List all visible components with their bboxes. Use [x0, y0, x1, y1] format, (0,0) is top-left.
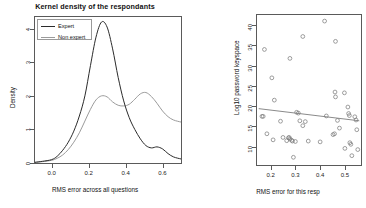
x-tickmark	[271, 166, 272, 170]
y-axis-title: Log10 password keyspace	[233, 40, 240, 115]
scatter-point	[356, 148, 360, 152]
scatter-point	[303, 120, 307, 124]
scatter-point	[301, 35, 305, 39]
x-tickmark	[295, 166, 296, 170]
chart-title: Kernel density of the respondants	[0, 2, 190, 11]
scatter-point	[301, 124, 305, 128]
scatter-point	[271, 138, 275, 142]
y-tick-label: 3	[25, 61, 31, 75]
scatter-point	[281, 136, 285, 140]
scatter-point	[336, 119, 340, 123]
scatter-point	[292, 155, 296, 159]
plot-area	[256, 14, 362, 166]
legend-label-expert: Expert	[58, 22, 74, 30]
x-tickmark	[345, 166, 346, 170]
scatter-point	[272, 98, 276, 102]
legend: Expert Non expert	[37, 19, 92, 40]
scatter-point	[334, 39, 338, 43]
y-tick-label: 4	[25, 28, 31, 42]
scatter-point	[270, 76, 274, 80]
y-tick-label: 40	[247, 24, 253, 40]
scatter-point	[323, 19, 327, 23]
y-tick-label: 30	[247, 65, 253, 81]
figure-canvas: Kernel density of the respondants Densit…	[0, 0, 366, 208]
legend-line-icon-expert	[41, 26, 55, 27]
scatter-point	[288, 56, 292, 60]
y-axis-title: Density	[9, 87, 16, 108]
scatter-point	[334, 95, 338, 99]
scatter-point	[350, 154, 354, 158]
x-tick-label: 0.4	[308, 172, 332, 178]
x-axis-title: RMS error across all questions	[0, 186, 190, 193]
legend-item-non-expert: Non expert	[41, 33, 88, 41]
x-tick-label: 0.2	[77, 170, 101, 176]
x-tickmark	[52, 164, 53, 168]
y-tick-label: 10	[247, 146, 253, 162]
x-tick-label: 0.3	[283, 172, 307, 178]
series-non-expert	[35, 92, 181, 162]
scatter-point	[263, 48, 267, 52]
x-tick-label: 0.0	[40, 170, 64, 176]
point-markers	[260, 19, 360, 159]
scatter-point	[298, 119, 302, 123]
x-tickmark	[163, 164, 164, 168]
scatter-point	[346, 105, 350, 109]
legend-item-expert: Expert	[41, 22, 88, 30]
scatter-point	[333, 90, 337, 94]
scatter-point	[318, 140, 322, 144]
x-tick-label: 0.6	[151, 170, 175, 176]
scatter-point	[306, 139, 310, 143]
legend-line-icon-non-expert	[41, 37, 55, 38]
y-tick-label: 35	[247, 44, 253, 60]
x-tick-label: 0.4	[114, 170, 138, 176]
x-tickmark	[126, 164, 127, 168]
y-tick-label: 2	[25, 95, 31, 109]
scatter-point	[265, 132, 269, 136]
scatter-point	[343, 146, 347, 150]
x-tick-label: 0.5	[333, 172, 357, 178]
y-tick-label: 1	[25, 128, 31, 142]
scatter-point	[343, 91, 347, 95]
legend-label-non-expert: Non expert	[58, 33, 85, 41]
y-tick-label: 25	[247, 85, 253, 101]
y-tick-label: 20	[247, 105, 253, 121]
x-tickmark	[320, 166, 321, 170]
x-tickmark	[89, 164, 90, 168]
scatter-point	[279, 119, 283, 123]
series-expert	[35, 21, 181, 162]
y-tick-label: 0	[25, 162, 31, 176]
scatter-point	[355, 128, 359, 132]
regression-line	[259, 109, 360, 121]
scatter-point	[338, 126, 342, 130]
y-tick-label: 15	[247, 125, 253, 141]
x-axis-title: RMS error for this resp	[210, 188, 366, 195]
x-tick-label: 0.2	[259, 172, 283, 178]
scatter-points	[257, 15, 361, 165]
